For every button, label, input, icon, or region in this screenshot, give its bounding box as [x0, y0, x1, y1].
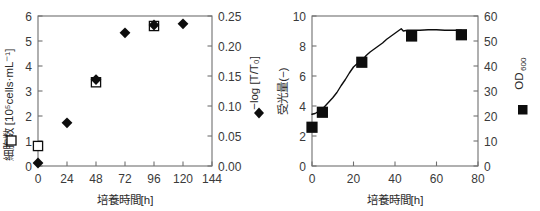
legend-open-square-icon [7, 136, 16, 145]
y-right-tick-label: 0.10 [218, 100, 242, 114]
data-point-filled-square [406, 30, 417, 41]
data-point-diamond [33, 158, 44, 169]
data-line-light-intensity [312, 29, 461, 115]
x-tick-label: 60 [430, 172, 444, 186]
y-right-tick-label: 30 [484, 85, 498, 99]
y-left-tick-label: 6 [25, 10, 32, 24]
x-tick-label: 24 [60, 172, 74, 186]
x-tick-label: 0 [35, 172, 42, 186]
plot-frame [38, 16, 212, 166]
y-right-tick-label: 10 [484, 135, 498, 149]
y-left-tick-label: 8 [299, 40, 306, 54]
y-left-tick-label: 5 [25, 35, 32, 49]
y-left-axis-title: 受光量(−) [276, 67, 289, 115]
y-left-tick-label: 2 [299, 130, 306, 144]
x-tick-label: 144 [202, 172, 222, 186]
data-point-filled-square [317, 107, 328, 118]
y-right-axis-title-group: OD600 [513, 57, 528, 90]
plot-frame [312, 16, 478, 166]
y-left-tick-label: 0 [25, 160, 32, 174]
x-tick-label: 0 [309, 172, 316, 186]
right-chart-svg: 02040608002468100102030405060培養時間[h]受光量(… [270, 0, 540, 211]
x-tick-label: 48 [89, 172, 103, 186]
y-right-tick-label: 0.00 [218, 160, 242, 174]
x-axis-title: 培養時間[h] [97, 193, 154, 206]
y-left-tick-label: 1 [25, 135, 32, 149]
x-axis-title: 培養時間[h] [367, 193, 424, 206]
y-left-tick-label: 3 [25, 85, 32, 99]
y-right-tick-label: 0 [484, 160, 491, 174]
y-left-tick-label: 4 [25, 60, 32, 74]
data-point-filled-square [306, 122, 317, 133]
left-chart-svg: 02448729612014401234560.000.050.100.150.… [0, 0, 270, 211]
legend-filled-square-icon [518, 105, 528, 115]
x-tick-label: 40 [388, 172, 402, 186]
y-right-axis-title: −log [T/T₀] [248, 56, 260, 110]
x-tick-label: 96 [147, 172, 161, 186]
y-right-axis-title-subscript: 600 [519, 57, 528, 71]
y-right-tick-label: 60 [484, 10, 498, 24]
y-right-tick-label: 50 [484, 35, 498, 49]
data-point-diamond [120, 27, 131, 38]
figure-root: 02448729612014401234560.000.050.100.150.… [0, 0, 540, 211]
y-right-tick-label: 0.15 [218, 70, 242, 84]
y-left-tick-label: 4 [299, 100, 306, 114]
x-tick-label: 120 [173, 172, 193, 186]
y-left-tick-label: 2 [25, 110, 32, 124]
chart-panel-left: 02448729612014401234560.000.050.100.150.… [0, 0, 270, 211]
y-right-tick-label: 0.20 [218, 40, 242, 54]
y-right-tick-label: 0.05 [218, 130, 242, 144]
y-left-tick-label: 0 [299, 160, 306, 174]
x-tick-label: 72 [118, 172, 132, 186]
data-point-filled-square [356, 57, 367, 68]
y-left-axis-title-group: 受光量(−) [276, 67, 289, 115]
data-point-filled-square [456, 29, 467, 40]
data-point-open-square [33, 141, 42, 150]
chart-panel-right: 02040608002468100102030405060培養時間[h]受光量(… [270, 0, 540, 211]
data-point-diamond [178, 18, 189, 29]
y-right-axis-title-group: −log [T/T₀] [248, 56, 260, 110]
y-right-tick-label: 20 [484, 110, 498, 124]
y-right-tick-label: 0.25 [218, 10, 242, 24]
y-left-tick-label: 10 [293, 10, 307, 24]
y-right-axis-title: OD [513, 72, 525, 89]
data-point-diamond [62, 117, 73, 128]
x-tick-label: 80 [471, 172, 485, 186]
x-tick-label: 20 [347, 172, 361, 186]
y-right-tick-label: 40 [484, 60, 498, 74]
y-left-tick-label: 6 [299, 70, 306, 84]
